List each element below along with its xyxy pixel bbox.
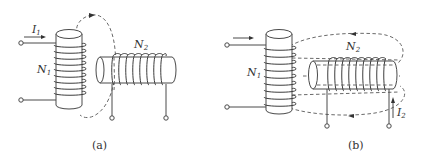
mutual-inductance-figure: I1 N1	[0, 0, 421, 160]
current-arrow-icon	[249, 36, 254, 40]
terminal	[225, 43, 229, 47]
coil-label-n1: N1	[246, 66, 261, 80]
terminal	[110, 116, 114, 120]
primary-coil-n1	[264, 30, 296, 115]
current-arrow-icon	[41, 35, 46, 39]
coil-label-n2: N2	[345, 40, 361, 54]
panel-caption-b: (b)	[348, 139, 364, 152]
terminal	[164, 116, 168, 120]
current-arrow-icon	[391, 97, 395, 103]
secondary-coil-n2	[96, 54, 176, 86]
flux-arrow-icon	[350, 32, 356, 36]
current-label-i2: I2	[396, 106, 406, 120]
flux-line	[77, 15, 92, 33]
current-label-i1: I1	[31, 23, 41, 37]
terminal	[325, 124, 329, 128]
secondary-coil-n2	[309, 58, 398, 92]
terminal	[19, 98, 23, 102]
terminal	[387, 124, 391, 128]
flux-arrow-icon	[89, 13, 95, 18]
terminal	[19, 41, 23, 45]
panel-b: N1	[225, 30, 407, 153]
panel-caption-a: (a)	[92, 139, 107, 152]
terminal	[225, 105, 229, 109]
coil-label-n1: N1	[36, 63, 51, 77]
coil-label-n2: N2	[133, 38, 149, 52]
primary-coil-n1	[54, 30, 86, 110]
panel-a: I1 N1	[19, 13, 176, 152]
